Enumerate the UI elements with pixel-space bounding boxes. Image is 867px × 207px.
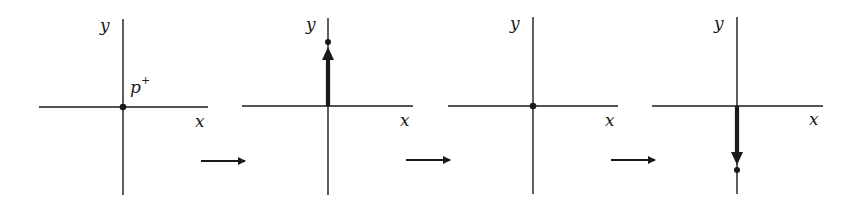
y-axis-label: y	[509, 13, 520, 33]
particle-dot	[734, 167, 740, 173]
particle-dot	[120, 104, 127, 111]
panel-3: y x	[448, 13, 618, 194]
arrow-up-icon	[322, 47, 334, 60]
particle-label: p	[130, 77, 141, 97]
x-axis-label: x	[605, 110, 615, 130]
panel-4: y x	[652, 13, 823, 194]
y-axis-label: y	[305, 14, 316, 34]
particle-dot	[325, 39, 331, 45]
arrow-down-icon	[731, 152, 743, 165]
oscillating-charge-diagram: y x p + y x y x y x	[0, 0, 867, 207]
x-axis-label: x	[400, 110, 410, 130]
y-axis-label: y	[713, 13, 724, 33]
particle-dot	[530, 103, 537, 110]
y-axis-label: y	[99, 15, 110, 35]
x-axis-label: x	[195, 111, 205, 131]
particle-charge-superscript: +	[141, 74, 150, 87]
panel-1: y x p +	[39, 15, 208, 195]
x-axis-label: x	[809, 109, 819, 129]
panel-2: y x	[242, 14, 413, 195]
